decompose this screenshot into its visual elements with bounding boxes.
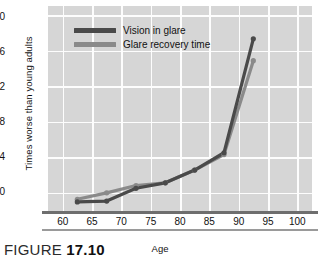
legend-item-glare-recovery-time: Glare recovery time	[74, 39, 210, 50]
series-line-vision-in-glare	[77, 39, 253, 202]
x-tick-label: 65	[77, 216, 107, 227]
x-tick-label: 80	[165, 216, 195, 227]
legend-label-glare-recovery-time: Glare recovery time	[123, 39, 210, 50]
y-tick-label: 4	[0, 151, 5, 162]
figure-container: Times worse than young adults 20 16 12 8…	[0, 0, 320, 265]
y-tick-label: 12	[0, 81, 5, 92]
legend-label-vision-in-glare: Vision in glare	[123, 25, 186, 36]
series-markers-vision-in-glare	[75, 36, 256, 204]
y-tick-label: 8	[0, 116, 5, 127]
data-point	[75, 199, 80, 204]
x-tick-label: 95	[253, 216, 283, 227]
x-tick-label: 90	[224, 216, 254, 227]
x-tick-label: 100	[282, 216, 312, 227]
x-tick-label: 75	[136, 216, 166, 227]
data-point	[104, 190, 109, 195]
data-point	[192, 167, 197, 172]
x-axis-outer-rule	[42, 229, 318, 231]
y-tick-label: 16	[0, 46, 5, 57]
chart-legend: Vision in glare Glare recovery time	[74, 25, 210, 50]
series-line-glare-recovery-time	[77, 61, 253, 200]
x-tick-label: 70	[106, 216, 136, 227]
data-point	[251, 58, 256, 63]
legend-swatch-vision-in-glare	[74, 28, 116, 33]
data-point	[104, 198, 109, 203]
x-axis-line	[42, 211, 318, 214]
figure-caption-number: 17.10	[66, 241, 105, 258]
x-tick-label: 85	[194, 216, 224, 227]
legend-swatch-glare-recovery-time	[74, 42, 116, 47]
y-axis-title: Times worse than young adults	[23, 14, 34, 194]
data-point	[163, 180, 168, 185]
plot-area: Vision in glare Glare recovery time	[48, 6, 312, 212]
x-axis-title: Age	[130, 243, 190, 254]
data-point	[221, 150, 226, 155]
legend-item-vision-in-glare: Vision in glare	[74, 25, 210, 36]
figure-caption-prefix: FIGURE	[4, 241, 66, 258]
y-tick-label: 0	[0, 186, 5, 197]
figure-caption: FIGURE 17.10	[4, 241, 105, 258]
y-tick-label: 20	[0, 11, 5, 22]
x-tick-label: 60	[48, 216, 78, 227]
data-point	[251, 36, 256, 41]
data-point	[133, 186, 138, 191]
